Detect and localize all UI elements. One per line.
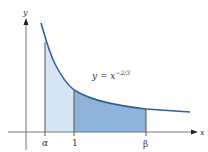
y-axis-arrow-icon	[24, 18, 29, 25]
curve-label-exponent: −2/3	[115, 69, 130, 76]
diagram: y x y = x−2/3 α 1 β	[0, 0, 208, 152]
y-axis-label: y	[22, 8, 28, 17]
tick-beta: β	[143, 139, 148, 149]
tick-alpha: α	[42, 138, 48, 148]
curve-label-base: y = x	[91, 71, 115, 81]
tick-one: 1	[72, 138, 78, 148]
curve-label: y = x−2/3	[91, 69, 130, 81]
x-axis-arrow-icon	[191, 130, 198, 135]
x-axis-label: x	[200, 128, 205, 137]
